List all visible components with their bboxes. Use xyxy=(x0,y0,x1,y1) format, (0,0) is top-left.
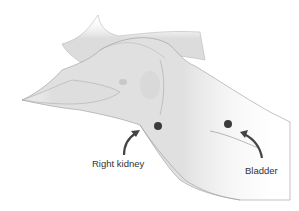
hand-shading xyxy=(140,71,160,99)
bladder-marker xyxy=(224,120,232,128)
right-kidney-marker xyxy=(154,122,162,130)
anatomy-diagram: Right kidney Bladder xyxy=(0,0,299,211)
shading-spot xyxy=(119,79,127,85)
body-illustration xyxy=(0,0,299,211)
bladder-label: Bladder xyxy=(245,165,278,176)
right-kidney-label: Right kidney xyxy=(92,158,144,169)
right-kidney-arrow xyxy=(124,133,136,155)
